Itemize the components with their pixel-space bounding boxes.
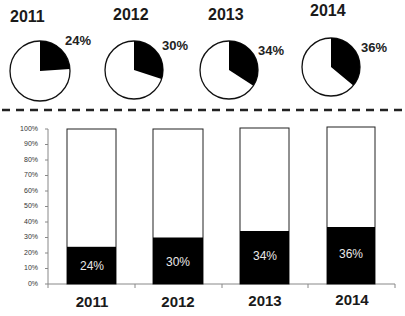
- ytick-10: 10%: [8, 264, 38, 271]
- xlabel-2011: 2011: [62, 293, 122, 310]
- ytick-50: 50%: [8, 202, 38, 209]
- pie-2011: [10, 41, 70, 101]
- ytick-80: 80%: [8, 156, 38, 163]
- xlabel-2013: 2013: [235, 292, 295, 309]
- x-ticks: [48, 284, 395, 288]
- bar-value-2011: 24%: [67, 259, 117, 273]
- pie-2012: [105, 41, 163, 99]
- ytick-90: 90%: [8, 140, 38, 147]
- bar-value-2013: 34%: [240, 249, 290, 263]
- pie-2014: [302, 38, 360, 96]
- ytick-60: 60%: [8, 187, 38, 194]
- pie-2013: [200, 41, 258, 99]
- ytick-30: 30%: [8, 233, 38, 240]
- ytick-40: 40%: [8, 218, 38, 225]
- xlabel-2012: 2012: [148, 293, 208, 310]
- ytick-20: 20%: [8, 249, 38, 256]
- bar-value-2012: 30%: [153, 255, 203, 269]
- ytick-0: 0%: [8, 280, 38, 287]
- bar-value-2014: 36%: [326, 247, 376, 261]
- ytick-70: 70%: [8, 171, 38, 178]
- ytick-100: 100%: [8, 125, 38, 132]
- xlabel-2014: 2014: [322, 291, 382, 308]
